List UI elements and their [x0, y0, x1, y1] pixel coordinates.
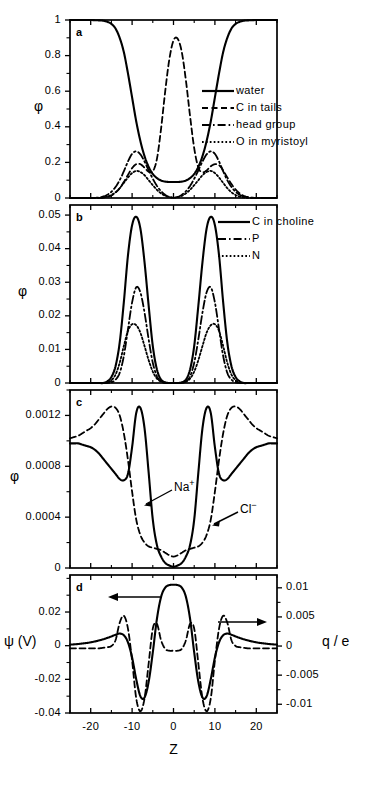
left-axis-arrow-head — [108, 593, 118, 601]
y-tick-label-d: -0.005 — [286, 668, 319, 680]
y-tick-label-c: 0 — [55, 561, 61, 573]
y-tick-label-b: 0.05 — [38, 208, 61, 220]
legend-a-label-0: water — [236, 84, 265, 96]
legend-a-label-2: head group — [236, 118, 296, 130]
curve-psi — [70, 585, 277, 699]
y-tick-label-d: 0.005 — [286, 609, 315, 621]
y-axis-label-d-right: q / e — [322, 633, 349, 649]
y-tick-label-d: 0.02 — [38, 605, 61, 617]
y-axis-label-c: φ — [10, 468, 19, 484]
y-tick-label-a: 0.6 — [45, 84, 61, 96]
x-tick-label: -20 — [82, 720, 99, 732]
legend-a-label-3: O in myristoyl — [236, 135, 308, 147]
y-tick-label-d: 0 — [286, 639, 292, 651]
x-tick-label: 10 — [208, 720, 221, 732]
panel-label-b: b — [76, 211, 83, 223]
x-tick-label: -10 — [124, 720, 141, 732]
x-tick-label: 20 — [250, 720, 263, 732]
y-tick-label-c: 0.0012 — [26, 408, 61, 420]
panel-label-d: d — [76, 581, 83, 593]
y-tick-label-d: 0.01 — [286, 580, 309, 592]
x-tick-label: 0 — [170, 720, 176, 732]
panel-label-a: a — [76, 26, 82, 38]
y-tick-label-d: 0 — [55, 638, 61, 650]
y-tick-label-b: 0.04 — [38, 241, 61, 253]
annotation-na: Na+ — [174, 478, 195, 494]
legend-b-label-1: P — [252, 232, 260, 244]
legend-b-label-2: N — [252, 249, 260, 261]
legend-b-label-0: C in choline — [252, 215, 314, 227]
curve-C-in-choline — [70, 217, 277, 383]
curve-qe — [70, 616, 277, 712]
x-axis-label: Z — [169, 741, 178, 757]
annotation-cl: Cl− — [240, 500, 257, 516]
y-tick-label-c: 0.0008 — [26, 459, 61, 471]
y-tick-label-a: 0.2 — [45, 155, 61, 167]
y-tick-label-b: 0 — [55, 376, 61, 388]
y-tick-label-a: 0 — [55, 191, 61, 203]
curve-P — [70, 287, 277, 383]
y-tick-label-a: 0.4 — [45, 119, 61, 131]
right-axis-arrow-head — [257, 618, 267, 626]
panel-frame-d — [70, 575, 277, 713]
y-tick-label-b: 0.01 — [38, 342, 61, 354]
legend-a-label-1: C in tails — [236, 101, 282, 113]
curve-N — [70, 324, 277, 383]
curve-head-group — [70, 151, 277, 198]
y-tick-label-d: -0.01 — [286, 697, 313, 709]
y-tick-label-d: -0.02 — [34, 672, 61, 684]
y-tick-label-b: 0.03 — [38, 275, 61, 287]
y-tick-label-c: 0.0004 — [26, 510, 61, 522]
panel-frame-b — [70, 205, 277, 383]
y-axis-label-d-left: ψ (V) — [4, 633, 37, 649]
y-tick-label-b: 0.02 — [38, 308, 61, 320]
y-axis-label-a: φ — [34, 98, 43, 114]
y-tick-label-a: 1 — [55, 13, 61, 25]
y-axis-label-b: φ — [18, 283, 27, 299]
figure-canvas: 00.20.40.60.8100.010.020.030.040.0500.00… — [0, 0, 374, 786]
na-arrow-head — [144, 501, 152, 507]
panel-label-c: c — [76, 396, 82, 408]
cl-arrow-head — [212, 521, 220, 527]
y-tick-label-d: -0.04 — [34, 706, 61, 718]
y-tick-label-a: 0.8 — [45, 48, 61, 60]
